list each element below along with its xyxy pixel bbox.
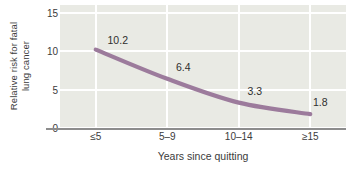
data-point-label: 3.3 xyxy=(247,85,262,97)
x-axis-tick-labels: ≤5 5–9 10–14 ≥15 xyxy=(60,131,346,147)
x-axis-title: Years since quitting xyxy=(60,150,346,162)
y-axis-tick-labels: 0 5 10 15 xyxy=(36,0,58,131)
y-tick-label: 5 xyxy=(52,84,58,95)
plot-area xyxy=(60,5,346,128)
data-point-label: 6.4 xyxy=(176,61,191,73)
x-tick-label: 5–9 xyxy=(159,131,176,142)
x-tick-label: ≤5 xyxy=(90,131,101,142)
y-axis-title-line-2: lung cancer xyxy=(20,21,32,109)
y-tick-label: 15 xyxy=(47,7,58,18)
line-chart-figure: Relative risk for fatal lung cancer 0 5 … xyxy=(0,0,354,171)
y-tick-label: 10 xyxy=(47,46,58,57)
y-axis-title: Relative risk for fatal lung cancer xyxy=(0,0,40,131)
x-tick-label: ≥15 xyxy=(302,131,319,142)
data-point-label: 10.2 xyxy=(108,34,128,46)
x-axis-line xyxy=(46,128,346,130)
x-tick-label: 10–14 xyxy=(225,131,253,142)
data-series-line xyxy=(60,5,346,128)
data-point-label: 1.8 xyxy=(313,96,328,108)
y-axis-title-line-1: Relative risk for fatal xyxy=(8,21,20,109)
